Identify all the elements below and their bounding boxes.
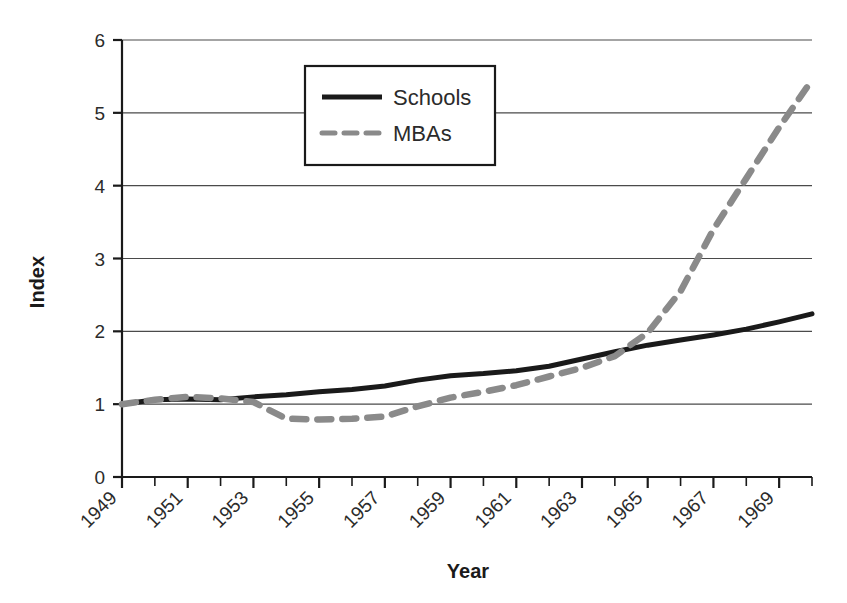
legend-box [305,66,495,165]
y-tick-label: 4 [94,176,105,197]
y-tick-label: 1 [94,394,105,415]
y-tick-label: 2 [94,321,105,342]
y-tick-label: 5 [94,103,105,124]
chart-container: 0123456 19491951195319551957195919611963… [0,0,847,603]
line-chart: 0123456 19491951195319551957195919611963… [0,0,847,603]
legend-label-schools: Schools [393,85,471,110]
y-tick-label: 3 [94,249,105,270]
x-axis-title: Year [447,560,489,582]
y-tick-label: 6 [94,30,105,51]
y-axis-title: Index [26,256,48,308]
legend: Schools MBAs [305,66,495,165]
legend-label-mbas: MBAs [393,121,452,146]
y-tick-label: 0 [94,467,105,488]
